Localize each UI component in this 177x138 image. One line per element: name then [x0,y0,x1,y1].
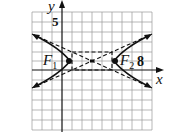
y-tick-label: 5 [52,15,59,28]
arrow-icon [32,34,40,40]
focus-label-f1: F1 [43,53,57,71]
center-point [90,60,94,63]
focus-point-f2 [112,58,118,64]
grid [32,12,152,130]
focus-point-f1 [66,58,72,64]
y-axis [59,0,65,132]
arrow-icon [32,82,40,88]
x-axis-label: x [156,72,163,87]
y-axis-label: y [48,0,55,14]
focus-label-f2: F2 [120,53,134,71]
hyperbola-diagram [0,0,177,138]
x-tick-label: 8 [137,55,144,69]
y-axis-arrow-icon [59,0,65,8]
